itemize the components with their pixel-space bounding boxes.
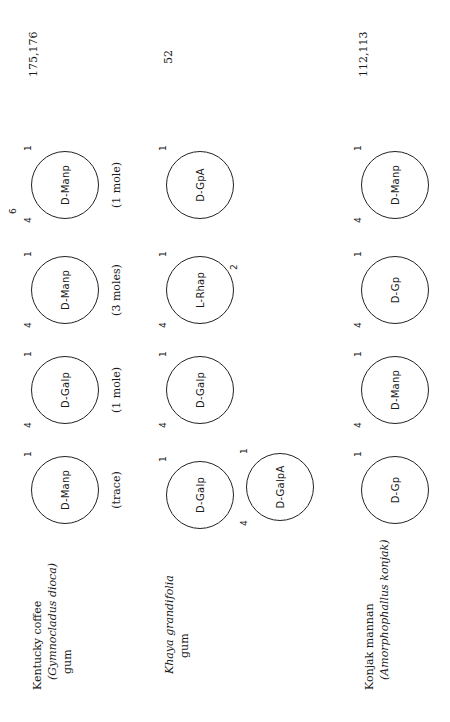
sugar-ring: D-Manp [31, 256, 99, 324]
position-4: 4 [354, 322, 363, 328]
reference-numbers: 52 [162, 50, 175, 64]
sugar-ring: D-Galp [166, 356, 234, 424]
source-species: (Amorphophallus konjak) [377, 539, 392, 690]
sugar-ring-branch: D-GalpA [246, 453, 314, 521]
sugar-label: D-Galp [195, 477, 206, 513]
source-species: Khaya grandifolia [162, 575, 177, 674]
position-2: 2 [230, 264, 239, 270]
position-4: 4 [240, 520, 249, 526]
position-1: 1 [354, 451, 363, 457]
sugar-ring: D-Galp [31, 356, 99, 424]
position-4: 4 [354, 217, 363, 223]
position-1: 1 [24, 451, 33, 457]
reference-numbers: 175,176 [27, 32, 40, 78]
sugar-ring: D-GpA [166, 151, 234, 219]
source-label-kentucky-coffee: Kentucky coffee (Gymnocladus dioca) gum [30, 563, 75, 690]
sugar-ring: D-Manp [31, 151, 99, 219]
position-4: 4 [159, 322, 168, 328]
sugar-label: D-Manp [390, 165, 401, 205]
position-1: 1 [159, 251, 168, 257]
sugar-label: D-Gp [390, 477, 401, 504]
sugar-label: D-Manp [60, 165, 71, 205]
sugar-ring: D-Manp [31, 456, 99, 524]
position-1: 1 [354, 351, 363, 357]
sugar-label: D-GalpA [275, 466, 286, 509]
position-1: 1 [354, 145, 363, 151]
reference-numbers: 112,113 [357, 32, 370, 78]
position-1: 1 [354, 251, 363, 257]
sugar-ring: D-Manp [361, 356, 429, 424]
position-1: 1 [159, 351, 168, 357]
sugar-label: D-GpA [195, 168, 206, 202]
quantity-label: (3 moles) [110, 264, 123, 316]
position-1: 1 [159, 456, 168, 462]
source-label-khaya-grandifolia: Khaya grandifolia gum [162, 575, 192, 674]
position-1: 1 [24, 145, 33, 151]
source-type: gum [177, 575, 192, 674]
position-6: 6 [9, 208, 18, 214]
sugar-label: D-Galp [195, 372, 206, 408]
source-type: gum [60, 563, 75, 690]
position-4: 4 [354, 422, 363, 428]
position-1: 1 [24, 351, 33, 357]
quantity-label: (1 mole) [110, 367, 123, 413]
position-1: 1 [240, 448, 249, 454]
position-1: 1 [24, 251, 33, 257]
sugar-ring: D-Galp [166, 461, 234, 529]
position-4: 4 [24, 322, 33, 328]
sugar-label: D-Galp [60, 372, 71, 408]
position-1: 1 [159, 145, 168, 151]
quantity-label: (1 mole) [110, 162, 123, 208]
sugar-label: L-Rhap [195, 272, 206, 308]
quantity-label: (trace) [110, 471, 123, 509]
sugar-label: D-Gp [390, 277, 401, 304]
sugar-ring: D-Gp [361, 456, 429, 524]
position-4: 4 [24, 217, 33, 223]
source-species: (Gymnocladus dioca) [45, 563, 60, 690]
sugar-label: D-Manp [60, 470, 71, 510]
position-4: 4 [159, 422, 168, 428]
sugar-ring: L-Rhap [166, 256, 234, 324]
rotated-figure-page: Kentucky coffee (Gymnocladus dioca) gum … [0, 0, 450, 722]
position-4: 4 [24, 422, 33, 428]
source-name: Kentucky coffee [30, 563, 45, 690]
sugar-label: D-Manp [60, 270, 71, 310]
source-label-konjak-mannan: Konjak mannan (Amorphophallus konjak) [362, 539, 392, 690]
source-name: Konjak mannan [362, 539, 377, 690]
sugar-label: D-Manp [390, 370, 401, 410]
sugar-ring: D-Manp [361, 151, 429, 219]
sugar-ring: D-Gp [361, 256, 429, 324]
